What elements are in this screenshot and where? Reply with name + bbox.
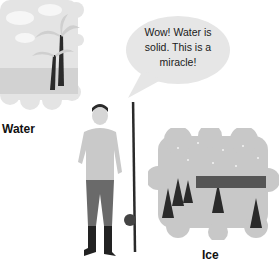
ice-label: Ice <box>202 248 219 262</box>
water-label: Water <box>2 122 35 136</box>
speech-bubble-text: Wow! Water is solid. This is a miracle! <box>133 25 223 70</box>
water-scene <box>0 0 85 112</box>
ice-scene <box>148 128 279 240</box>
fisherman-figure <box>70 102 150 267</box>
sea <box>0 68 78 94</box>
